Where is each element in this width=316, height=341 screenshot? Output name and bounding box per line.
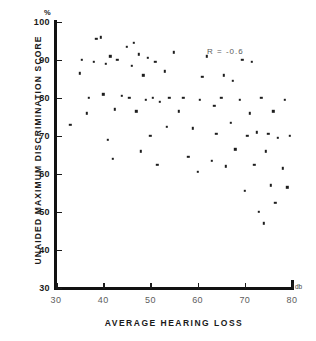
data-point [232,80,234,82]
data-point [258,211,260,213]
y-tick-label: 100 [34,17,50,27]
data-point [220,97,222,99]
data-point [187,156,189,158]
data-point [270,184,272,186]
x-tick [245,283,247,289]
data-point [142,74,144,76]
data-point [251,61,253,63]
y-tick [57,250,62,251]
data-point [201,76,203,78]
data-point [152,97,154,99]
x-tick-label: 50 [145,295,156,305]
correlation-annotation: R = -0.6 [207,47,244,56]
y-tick-label: 90 [39,55,50,65]
data-point [133,42,135,44]
data-point [225,165,227,167]
y-tick [57,98,62,99]
data-point [111,158,113,160]
data-point [109,55,111,57]
plot-area: 30405060708090100 304050607080 R = -0.6 [56,22,292,288]
data-point [196,171,198,173]
y-tick-label: 40 [39,245,50,255]
x-tick-label: 80 [287,295,298,305]
y-tick [57,174,62,175]
data-point [272,110,274,112]
x-tick [150,283,152,289]
data-point [241,59,243,61]
data-point [253,163,255,165]
data-point [163,70,165,72]
data-point [260,97,262,99]
data-point [159,101,161,103]
data-point [85,112,87,114]
data-point [156,163,158,165]
data-point [213,104,215,106]
data-point [147,57,149,59]
y-tick [57,60,62,61]
y-tick-label: 60 [39,169,50,179]
data-point [281,167,283,169]
x-tick [292,283,294,289]
data-point [107,139,109,141]
data-point [81,59,83,61]
data-point [121,95,123,97]
y-tick-label: 50 [39,207,50,217]
x-tick-label: 40 [98,295,109,305]
y-tick [57,22,62,23]
y-tick [57,212,62,213]
data-point [277,137,279,139]
data-point [144,99,146,101]
data-point [102,93,104,95]
data-point [78,72,80,74]
data-point [130,64,132,66]
data-point [114,108,116,110]
data-point [267,133,269,135]
data-point [173,51,175,53]
scatter-plot-figure: UNAIDED MAXIMUM DISCRIMINATION SCORE AVE… [0,0,316,341]
data-point [93,61,95,63]
data-point [274,201,276,203]
data-point [246,135,248,137]
data-point [265,150,267,152]
data-point [126,45,128,47]
data-point [248,112,250,114]
data-point [116,59,118,61]
data-point [135,110,137,112]
y-tick [57,288,62,289]
y-axis-unit-label: % [44,8,51,17]
x-tick-label: 60 [192,295,203,305]
data-point [284,99,286,101]
data-point [262,222,264,224]
x-tick [198,283,200,289]
x-tick-label: 70 [239,295,250,305]
data-point [255,131,257,133]
x-tick [103,283,105,289]
data-point [69,123,71,125]
data-point [137,53,139,55]
data-point [182,97,184,99]
data-point [100,36,102,38]
data-point [168,97,170,99]
y-tick-label: 30 [39,283,50,293]
data-point [199,99,201,101]
x-axis-unit-label: db [295,283,302,290]
data-point [229,121,231,123]
x-tick [56,283,58,289]
data-point [166,125,168,127]
x-axis-line [54,287,292,290]
x-axis-title: AVERAGE HEARING LOSS [56,318,292,328]
data-point [288,135,290,137]
x-tick-label: 30 [51,295,62,305]
data-point [104,63,106,65]
data-point [128,97,130,99]
data-point [286,186,288,188]
data-point [222,74,224,76]
data-point [178,110,180,112]
data-point [95,38,97,40]
data-point [154,61,156,63]
data-point [239,99,241,101]
y-tick-label: 70 [39,131,50,141]
data-point [140,150,142,152]
data-point [192,127,194,129]
data-point [211,159,213,161]
